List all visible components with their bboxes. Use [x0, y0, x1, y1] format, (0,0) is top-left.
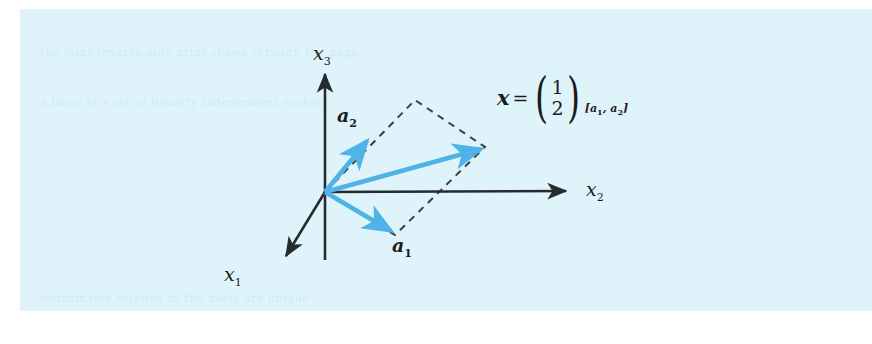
- axis-label-x1-sub: 1: [235, 276, 242, 289]
- axis-label-x2: x2: [586, 178, 604, 204]
- coordinate-equation: x = ( 1 2 ) [a1, a2]: [497, 76, 628, 119]
- vector-x: [325, 149, 481, 192]
- axis-label-x3-base: x: [313, 42, 324, 64]
- axis-label-x2-base: x: [586, 178, 597, 200]
- left-paren: (: [535, 76, 548, 119]
- axis-label-x1: x1: [224, 263, 242, 289]
- basis-item-a1-base: a: [590, 102, 597, 115]
- equation-symbol-x: x: [497, 85, 510, 110]
- basis-bracket-close: ]: [623, 102, 628, 115]
- figure-root: the faint reverse-side print shows throu…: [0, 0, 872, 344]
- axis-x2: [325, 191, 566, 192]
- axis-label-x3-sub: 3: [324, 55, 331, 68]
- column-vector-entries: 1 2: [552, 77, 564, 118]
- equation-equals-sign: =: [513, 87, 529, 109]
- vector-label-a1-sub: 1: [404, 247, 412, 260]
- axis-label-x3: x3: [313, 42, 331, 68]
- vector-a1: [325, 192, 391, 231]
- basis-separator: ,: [603, 102, 607, 115]
- axis-label-x1-base: x: [224, 263, 235, 285]
- vector-label-a2-base: a: [337, 104, 349, 126]
- right-paren: ): [567, 76, 580, 119]
- vector-label-a2: a2: [337, 104, 357, 130]
- axis-label-x2-sub: 2: [597, 191, 604, 204]
- axis-x1: [286, 192, 325, 256]
- vector-label-a2-sub: 2: [349, 117, 357, 130]
- basis-subscript: [a1, a2]: [585, 102, 629, 119]
- column-vector: ( 1 2 ): [531, 76, 583, 119]
- column-entry-1: 1: [552, 77, 564, 98]
- vector-diagram: [0, 0, 872, 344]
- column-entry-2: 2: [552, 98, 564, 119]
- vector-label-a1-base: a: [392, 234, 404, 256]
- vector-label-a1: a1: [392, 234, 412, 260]
